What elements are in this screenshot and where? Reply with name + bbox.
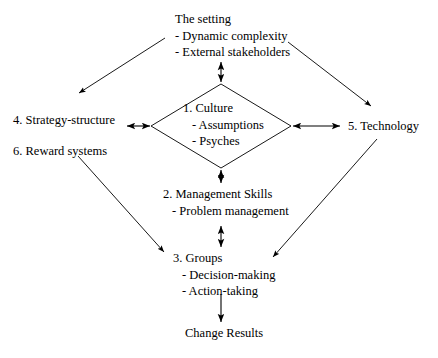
diagram-canvas: The setting - Dynamic complexity - Exter… (0, 0, 438, 358)
node-management-skills: 2. Management Skills - Problem managemen… (163, 186, 289, 219)
node-the-setting-bullet-2: - External stakeholders (175, 44, 290, 61)
connector-reward-to-groups-diagonal (78, 156, 164, 252)
node-groups-bullet-2: - Action-taking (173, 283, 275, 300)
connector-setting-to-technology-diagonal (288, 42, 371, 106)
node-culture-bullet-2: - Psyches (183, 133, 264, 150)
node-the-setting-bullet-1: - Dynamic complexity (175, 28, 290, 45)
node-the-setting-heading: The setting (175, 11, 290, 28)
connector-setting-to-strategy-diagonal (79, 38, 165, 93)
node-groups: 3. Groups - Decision-making - Action-tak… (173, 250, 275, 300)
node-technology-heading: 5. Technology (348, 118, 419, 135)
node-management-skills-heading: 2. Management Skills (163, 186, 289, 203)
node-change-results: Change Results (185, 325, 263, 342)
node-management-skills-bullet-1: - Problem management (163, 203, 289, 220)
node-culture-heading: 1. Culture (183, 100, 264, 117)
node-strategy-structure: 4. Strategy-structure (13, 112, 115, 129)
node-the-setting: The setting - Dynamic complexity - Exter… (175, 11, 290, 61)
node-reward-systems: 6. Reward systems (13, 143, 107, 160)
node-groups-bullet-1: - Decision-making (173, 267, 275, 284)
node-strategy-structure-heading: 4. Strategy-structure (13, 112, 115, 129)
node-change-results-heading: Change Results (185, 325, 263, 342)
node-culture-bullet-1: - Assumptions (183, 117, 264, 134)
node-culture: 1. Culture - Assumptions - Psyches (183, 100, 264, 150)
node-groups-heading: 3. Groups (173, 250, 275, 267)
node-technology: 5. Technology (348, 118, 419, 135)
node-reward-systems-heading: 6. Reward systems (13, 143, 107, 160)
